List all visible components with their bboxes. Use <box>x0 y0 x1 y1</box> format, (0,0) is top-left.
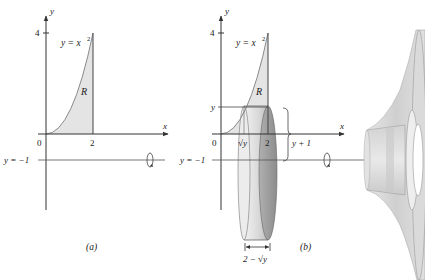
solid-of-revolution-figure: y x 4 0 2 R y = x 2 y = −1 (a) <box>0 0 425 280</box>
y-tick-4-b: 4 <box>210 28 215 38</box>
y-axis-label-b: y <box>224 6 229 16</box>
svg-text:y = x: y = x <box>60 38 81 48</box>
x-tick-sqrt-y: √y <box>238 138 247 148</box>
rotation-axis-label-b: y = −1 <box>179 155 205 165</box>
svg-text:y = x: y = x <box>235 38 256 48</box>
radius-label: y + 1 <box>291 138 311 148</box>
x-tick-0: 0 <box>37 138 42 148</box>
y-axis-label: y <box>49 6 54 16</box>
panel-a: y x 4 0 2 R y = x 2 y = −1 (a) <box>3 6 168 253</box>
x-tick-2-b: 2 <box>265 138 270 148</box>
x-tick-2: 2 <box>90 138 95 148</box>
x-tick-0-b: 0 <box>212 138 217 148</box>
region-r-label-b: R <box>255 86 262 97</box>
width-label: 2 − √y <box>243 254 267 264</box>
y-var-tick: y <box>210 102 215 112</box>
region-r-fill <box>46 33 93 134</box>
svg-text:2: 2 <box>262 35 265 42</box>
x-axis-label: x <box>162 121 167 131</box>
curve-equation-label: y = x 2 <box>60 35 90 48</box>
panel-b: y x 4 y 0 √y 2 R y = x 2 y = −1 y + 1 2 … <box>179 6 366 264</box>
region-r-label: R <box>80 86 87 97</box>
x-axis-label-b: x <box>339 121 344 131</box>
width-dimension <box>245 243 270 251</box>
y-tick-4: 4 <box>35 28 40 38</box>
svg-text:2: 2 <box>87 35 90 42</box>
rotation-axis-label: y = −1 <box>3 155 29 165</box>
curve-equation-label-b: y = x 2 <box>235 35 265 48</box>
panel-a-label: (a) <box>86 242 97 253</box>
solid-of-revolution <box>364 30 425 280</box>
panel-b-label: (b) <box>300 242 311 253</box>
